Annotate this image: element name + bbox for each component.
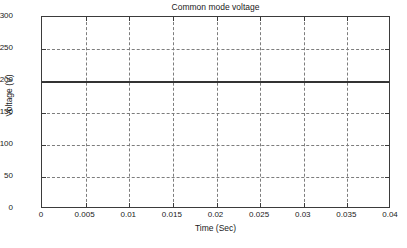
chart-title: Common mode voltage <box>41 1 390 13</box>
x-axis-tick-top <box>347 17 348 21</box>
y-axis-tick-right <box>385 113 389 114</box>
y-axis-tick <box>42 49 46 50</box>
x-axis-tick-label: 0.03 <box>295 210 311 220</box>
x-axis-tick <box>304 203 305 207</box>
y-axis-label: Voltage (V) <box>4 56 15 136</box>
x-axis-label: Time (Sec) <box>41 223 390 234</box>
y-axis-tick <box>42 145 46 146</box>
grid-line-vertical <box>86 17 87 207</box>
plot-area <box>41 16 390 208</box>
x-axis-tick-label: 0 <box>39 210 43 220</box>
grid-line-horizontal <box>42 177 389 178</box>
grid-line-vertical <box>217 17 218 207</box>
grid-line-vertical <box>173 17 174 207</box>
x-axis-tick-top <box>304 17 305 21</box>
grid-line-vertical <box>304 17 305 207</box>
x-axis-tick-label: 0.02 <box>208 210 224 220</box>
y-axis-tick-right <box>385 177 389 178</box>
grid-line-horizontal <box>42 49 389 50</box>
x-axis-tick-label: 0.015 <box>162 210 182 220</box>
y-axis-tick-label: 50 <box>4 171 13 181</box>
y-axis-tick <box>42 113 46 114</box>
x-axis-tick-label: 0.04 <box>382 210 398 220</box>
y-axis-tick-label: 200 <box>0 75 13 85</box>
y-axis-tick-label: 0 <box>9 203 13 213</box>
y-axis-tick-label: 300 <box>0 11 13 21</box>
x-axis-tick-top <box>173 17 174 21</box>
y-axis-tick-right <box>385 81 389 82</box>
y-axis-tick <box>42 81 46 82</box>
x-axis-tick-label: 0.01 <box>120 210 136 220</box>
grid-line-vertical <box>347 17 348 207</box>
x-axis-tick-label: 0.005 <box>75 210 95 220</box>
x-axis-tick-top <box>217 17 218 21</box>
x-axis-tick-top <box>86 17 87 21</box>
series-line <box>42 81 389 83</box>
x-axis-tick-label: 0.025 <box>249 210 269 220</box>
x-axis-tick <box>260 203 261 207</box>
x-axis-tick <box>129 203 130 207</box>
plot-inner <box>42 17 389 207</box>
x-axis-tick <box>347 203 348 207</box>
x-axis-tick <box>86 203 87 207</box>
x-axis-tick <box>173 203 174 207</box>
y-axis-tick-label: 100 <box>0 139 13 149</box>
grid-line-vertical <box>260 17 261 207</box>
x-axis-tick-label: 0.035 <box>336 210 356 220</box>
y-axis-tick-label: 250 <box>0 43 13 53</box>
grid-line-vertical <box>129 17 130 207</box>
x-axis-tick <box>217 203 218 207</box>
x-axis-tick-top <box>260 17 261 21</box>
chart-figure: Common mode voltage Time (Sec) Voltage (… <box>0 0 407 248</box>
x-axis-tick-top <box>129 17 130 21</box>
y-axis-tick-right <box>385 145 389 146</box>
y-axis-tick-label: 150 <box>0 107 13 117</box>
y-axis-tick <box>42 177 46 178</box>
grid-line-horizontal <box>42 113 389 114</box>
y-axis-tick-right <box>385 49 389 50</box>
grid-line-horizontal <box>42 145 389 146</box>
